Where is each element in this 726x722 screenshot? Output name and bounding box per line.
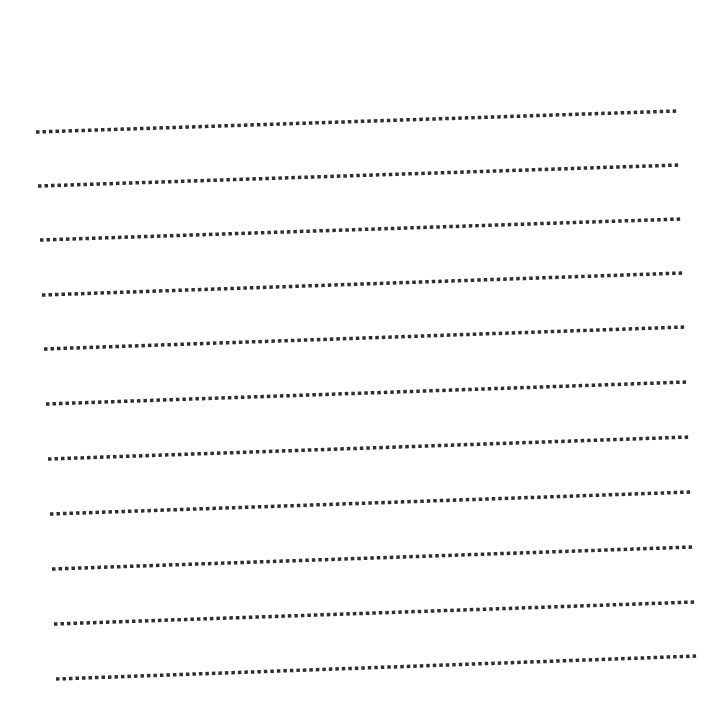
lined-writing-sheet (0, 0, 726, 722)
page-background (0, 0, 726, 722)
